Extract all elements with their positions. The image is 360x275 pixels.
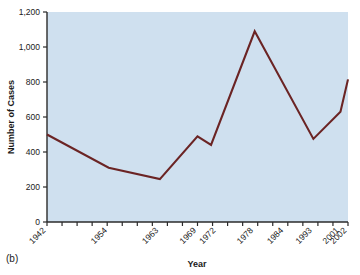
x-axis-tick-label: 1978 — [235, 225, 256, 246]
x-axis-tick-label: 1963 — [140, 225, 161, 246]
x-axis-ticks — [47, 222, 348, 226]
plot-area-background — [47, 12, 348, 222]
y-axis-tick-label: 600 — [26, 112, 40, 122]
x-axis-title: Year — [187, 259, 207, 269]
x-axis-tick-label: 1993 — [293, 225, 314, 246]
y-axis-tick-label: 1,200 — [19, 7, 41, 17]
x-axis-tick-label: 1972 — [197, 225, 218, 246]
x-axis-tick-label: 1969 — [177, 225, 198, 246]
figure-panel: 02004006008001,0001,200 1942195419631969… — [0, 0, 360, 275]
y-axis-title: Number of Cases — [6, 80, 16, 154]
x-axis-tick-label: 1942 — [27, 225, 48, 246]
x-axis-tick-labels: 1942195419631969197219781984199320012002 — [27, 225, 349, 246]
y-axis-tick-label: 200 — [26, 182, 40, 192]
y-axis-tick-label: 400 — [26, 147, 40, 157]
y-axis-ticks: 02004006008001,0001,200 — [19, 7, 47, 227]
line-chart: 02004006008001,0001,200 1942195419631969… — [0, 0, 360, 275]
panel-label: (b) — [6, 253, 18, 264]
x-axis-tick-label: 1954 — [89, 225, 110, 246]
x-axis-tick-label: 1984 — [265, 225, 286, 246]
y-axis-tick-label: 800 — [26, 77, 40, 87]
y-axis-tick-label: 1,000 — [19, 42, 41, 52]
